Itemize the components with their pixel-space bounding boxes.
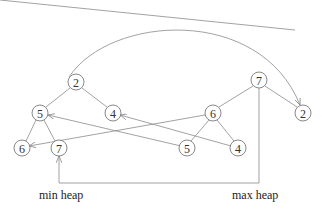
svg-text:5: 5 xyxy=(184,142,190,156)
node-max-7: 7 xyxy=(251,72,267,88)
max-heap-nodes: 76254 xyxy=(179,72,311,156)
svg-text:6: 6 xyxy=(19,142,25,156)
heap-diagram: 25467 76254 xyxy=(0,0,324,214)
min-heap-label: min heap xyxy=(39,188,83,203)
node-min-4: 4 xyxy=(105,105,121,121)
min-heap-nodes: 25467 xyxy=(14,74,121,156)
node-max-2: 2 xyxy=(295,105,311,121)
max-heap-label: max heap xyxy=(232,188,278,203)
node-max-6: 6 xyxy=(205,105,221,121)
curve-min2-to-max2 xyxy=(69,30,300,105)
svg-text:4: 4 xyxy=(110,107,116,121)
node-min-6: 6 xyxy=(14,140,30,156)
svg-text:6: 6 xyxy=(210,107,216,121)
node-max-4: 4 xyxy=(230,140,246,156)
svg-text:7: 7 xyxy=(56,142,62,156)
svg-text:4: 4 xyxy=(235,142,241,156)
svg-text:7: 7 xyxy=(256,74,262,88)
svg-text:2: 2 xyxy=(73,76,79,90)
node-min-7: 7 xyxy=(51,140,67,156)
node-min-2: 2 xyxy=(68,74,84,90)
cross-links xyxy=(0,0,300,183)
node-max-5: 5 xyxy=(179,140,195,156)
svg-text:5: 5 xyxy=(37,107,43,121)
node-min-5: 5 xyxy=(32,105,48,121)
svg-text:2: 2 xyxy=(300,107,306,121)
